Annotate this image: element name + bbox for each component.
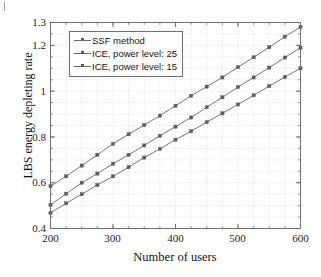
legend-line-marker-icon bbox=[73, 48, 92, 59]
legend-label: ICE, power level: 25 bbox=[92, 48, 177, 59]
legend-item-ice-power-15[interactable]: ICE, power level: 15 bbox=[73, 60, 177, 73]
xtick-label-300: 300 bbox=[98, 233, 127, 244]
xtick-label-200: 200 bbox=[36, 233, 65, 244]
xtick-label-400: 400 bbox=[161, 233, 190, 244]
figure-canvas: 1.3 1.2 1 0.8 0.6 0.4 200 300 400 500 60… bbox=[0, 0, 321, 277]
legend-item-ice-power-25[interactable]: ICE, power level: 25 bbox=[73, 47, 177, 60]
xtick-label-600: 600 bbox=[286, 233, 315, 244]
legend-line-marker-icon bbox=[73, 61, 92, 72]
chart-legend: SSF method ICE, power level: 25 ICE, pow… bbox=[69, 31, 183, 77]
y-axis-title: LBS energy depleting rate bbox=[21, 26, 36, 206]
xtick-label-500: 500 bbox=[223, 233, 252, 244]
legend-label: ICE, power level: 15 bbox=[92, 61, 177, 72]
legend-item-ssf-method[interactable]: SSF method bbox=[73, 34, 177, 47]
legend-line-marker-icon bbox=[73, 35, 92, 46]
legend-label: SSF method bbox=[92, 35, 145, 46]
x-axis-title: Number of users bbox=[50, 250, 300, 265]
